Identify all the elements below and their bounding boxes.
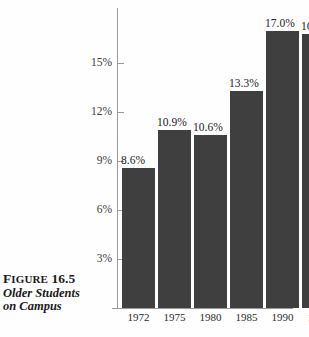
figure-caption-title-line2: on Campus [3,300,107,314]
x-axis-tick-label: 1985 [227,311,266,323]
x-axis-tick-label: 1990 [263,311,302,323]
y-axis-tick-label-text: 3% [78,252,112,264]
bar-value-label: 10.9% [157,116,187,128]
figure-caption-title-line1: Older Students [3,287,107,301]
y-axis-line [117,8,118,308]
bar [230,91,263,308]
bar-value-label: 8.6% [121,154,145,166]
caption-figure-numeral: 16.5 [48,271,76,286]
y-axis-tick [118,63,124,64]
y-axis-tick-label: 15% [78,56,112,69]
caption-figure-rest: IGURE [11,273,48,285]
x-axis-tick-label: 1972 [119,311,158,323]
y-axis-tick-label-text: 6% [78,203,112,215]
x-axis-tick-label: 1980 [191,311,230,323]
y-axis-tick-label: 12% [78,105,112,118]
bar-value-label: 16.8% [301,20,309,32]
bar [122,168,155,308]
y-axis-tick-label-text: 12% [78,105,112,117]
y-axis-tick-label: 3% [78,252,112,265]
y-axis-tick-label: 6% [78,203,112,216]
bar-value-label: 10.6% [193,121,223,133]
bar-value-label: 13.3% [229,77,259,89]
x-axis-tick-label: 1975 [155,311,194,323]
figure-caption-number: FIGURE 16.5 [3,272,107,287]
bar-value-label: 17.0% [265,17,295,29]
y-axis-tick-label-text: 9% [78,154,112,166]
x-axis-tick-label: 1992 [299,311,309,323]
x-axis-line [112,308,293,309]
figure-caption: FIGURE 16.5 Older Students on Campus [3,272,107,314]
bar [302,34,309,308]
y-axis-tick-label-text: 15% [78,56,112,68]
figure-container: Older Students on Campus 15%12%9%6%3% 8.… [0,0,309,337]
bar [266,31,299,308]
y-axis-tick-label: 9% [78,154,112,167]
bar [194,135,227,308]
y-axis-tick [118,112,124,113]
bar [158,130,191,308]
